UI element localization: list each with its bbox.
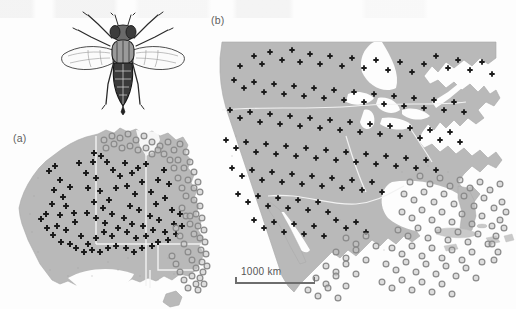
circle-marker <box>143 145 149 151</box>
circle-marker <box>399 277 405 283</box>
circle-marker <box>187 159 193 165</box>
circle-marker <box>437 175 443 181</box>
cross-marker <box>223 137 228 142</box>
circle-marker <box>177 269 183 275</box>
circle-marker <box>475 231 481 237</box>
circle-marker <box>353 241 359 247</box>
fly-illustration <box>58 6 188 118</box>
circle-marker <box>149 151 155 157</box>
circle-marker <box>419 253 425 259</box>
panel-label-a: (a) <box>13 132 26 144</box>
circle-marker <box>335 295 341 301</box>
cross-marker <box>437 137 442 142</box>
circle-marker <box>135 147 141 153</box>
circle-marker <box>173 225 179 231</box>
circle-marker <box>401 191 407 197</box>
circle-marker <box>487 187 493 193</box>
circle-marker <box>473 275 479 281</box>
circle-marker <box>189 273 195 279</box>
circle-marker <box>441 191 447 197</box>
circle-marker <box>141 133 147 139</box>
cross-marker <box>229 165 234 170</box>
circle-marker <box>445 237 451 243</box>
circle-marker <box>407 179 413 185</box>
circle-marker <box>125 131 131 137</box>
circle-marker <box>449 247 455 253</box>
circle-marker <box>425 235 431 241</box>
circle-marker <box>435 227 441 233</box>
circle-marker <box>455 229 461 235</box>
cross-marker <box>245 199 250 204</box>
circle-marker <box>429 217 435 223</box>
cross-marker <box>233 145 238 150</box>
circle-marker <box>187 213 193 219</box>
circle-marker <box>393 267 399 273</box>
scale-bar-line <box>235 282 315 284</box>
circle-marker <box>499 199 505 205</box>
circle-marker <box>155 147 161 153</box>
circle-marker <box>333 273 339 279</box>
circle-marker <box>477 179 483 185</box>
circle-marker <box>501 225 507 231</box>
circle-marker <box>181 241 187 247</box>
north-america-landmass <box>220 42 502 292</box>
circle-marker <box>409 243 415 249</box>
circle-marker <box>443 263 449 269</box>
circle-marker <box>417 173 423 179</box>
circle-marker <box>419 207 425 213</box>
circle-marker <box>165 139 171 145</box>
circle-marker <box>479 213 485 219</box>
circle-marker <box>429 245 435 251</box>
circle-marker <box>379 279 385 285</box>
circle-marker <box>405 233 411 239</box>
circle-marker <box>109 133 115 139</box>
circle-marker <box>343 283 349 289</box>
circle-marker <box>411 197 417 203</box>
circle-marker <box>503 209 509 215</box>
circle-marker <box>323 263 329 269</box>
circle-marker <box>497 181 503 187</box>
circle-marker <box>449 291 455 297</box>
circle-marker <box>467 185 473 191</box>
circle-marker <box>439 255 445 261</box>
circle-marker <box>453 273 459 279</box>
circle-marker <box>353 271 359 277</box>
circle-marker <box>173 261 179 267</box>
circle-marker <box>103 145 109 151</box>
circle-marker <box>439 281 445 287</box>
circle-marker <box>403 259 409 265</box>
tasmania-island <box>163 291 182 307</box>
circle-marker <box>469 249 475 255</box>
cross-marker <box>467 67 472 72</box>
circle-marker <box>429 289 435 295</box>
circle-marker <box>395 227 401 233</box>
circle-marker <box>431 199 437 205</box>
cross-marker <box>447 129 452 134</box>
circle-marker <box>465 239 471 245</box>
circle-marker <box>447 183 453 189</box>
circle-marker <box>119 145 125 151</box>
circle-marker <box>491 205 497 211</box>
panel-label-b: (b) <box>211 14 224 26</box>
circle-marker <box>459 257 465 263</box>
circle-marker <box>409 215 415 221</box>
circle-marker <box>389 245 395 251</box>
circle-marker <box>439 209 445 215</box>
circle-marker <box>127 143 133 149</box>
scale-bar-cap-right <box>314 277 316 284</box>
circle-marker <box>185 249 191 255</box>
circle-marker <box>183 149 189 155</box>
circle-marker <box>449 219 455 225</box>
fly-illustration-svg <box>58 6 188 118</box>
circle-marker <box>493 233 499 239</box>
map-panel-australia <box>8 118 223 308</box>
circle-marker <box>133 137 139 143</box>
north-america-map-svg <box>196 6 516 306</box>
circle-marker <box>427 181 433 187</box>
circle-marker <box>457 177 463 183</box>
circle-marker <box>187 221 193 227</box>
australia-map-svg <box>8 118 223 308</box>
circle-marker <box>491 257 497 263</box>
circle-marker <box>171 165 177 171</box>
circle-marker <box>433 271 439 277</box>
